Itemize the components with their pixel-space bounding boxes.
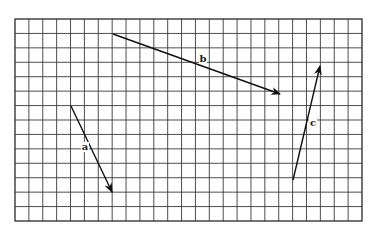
vector-diagram: a b c xyxy=(0,0,376,238)
vector-b-label: b xyxy=(200,53,207,64)
vector-b: b xyxy=(113,34,280,94)
vector-c-label: c xyxy=(310,117,316,128)
vector-a-label: a xyxy=(82,141,89,152)
grid-svg: a b c xyxy=(0,0,376,238)
vector-b-arrow xyxy=(113,34,280,94)
